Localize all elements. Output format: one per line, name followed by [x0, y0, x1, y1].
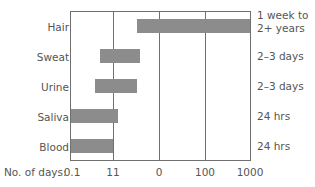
x-axis-caption: No. of days:	[4, 166, 67, 178]
duration-label-hair-line2: 2+ years	[257, 22, 305, 35]
bar-saliva	[71, 109, 118, 123]
x-tick-label-0: 0.1	[64, 166, 81, 178]
bar-blood	[71, 139, 113, 153]
x-tick-label-4: 1000	[237, 166, 264, 178]
x-tick-label-1: 11	[106, 166, 119, 178]
duration-label-hair-line1: 1 week to	[257, 9, 309, 22]
x-tick-label-3: 100	[195, 166, 215, 178]
bar-sweat	[100, 49, 140, 63]
duration-label-blood: 24 hrs	[257, 140, 290, 153]
gridline-100	[205, 12, 206, 160]
duration-label-urine: 2–3 days	[257, 80, 304, 93]
x-tick-label-2: 0	[156, 166, 163, 178]
category-label-blood: Blood	[0, 141, 69, 153]
bar-urine	[95, 79, 137, 93]
category-label-hair: Hair	[0, 21, 69, 33]
gridline-10	[159, 12, 160, 160]
category-label-urine: Urine	[0, 81, 69, 93]
duration-label-saliva: 24 hrs	[257, 110, 290, 123]
bar-hair	[137, 19, 250, 33]
drug-detection-window-chart: Hair 1 week to 2+ years Sweat 2–3 days U…	[0, 0, 315, 187]
duration-label-sweat: 2–3 days	[257, 50, 304, 63]
category-label-sweat: Sweat	[0, 51, 69, 63]
category-label-saliva: Saliva	[0, 111, 69, 123]
